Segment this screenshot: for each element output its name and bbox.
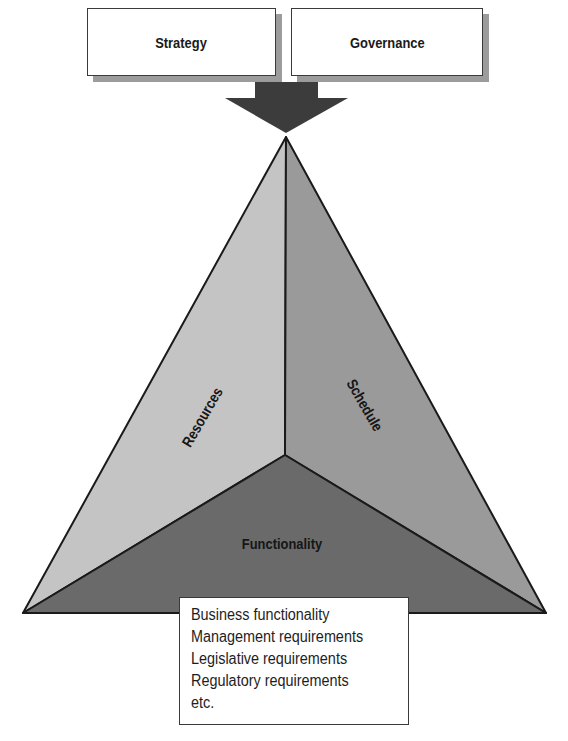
functionality-details-list: Business functionality Management requir… — [191, 604, 408, 714]
strategy-label: Strategy — [156, 34, 208, 51]
list-item: Regulatory requirements — [191, 670, 386, 692]
governance-label: Governance — [350, 34, 425, 51]
list-item: Business functionality — [191, 604, 386, 626]
functionality-label: Functionality — [242, 535, 322, 552]
list-item: Management requirements — [191, 626, 386, 648]
down-arrow-icon — [225, 82, 348, 133]
strategy-box: Strategy — [87, 8, 276, 76]
diagram-canvas: Strategy Governance Resources Schedule F… — [0, 0, 568, 741]
list-item: Legislative requirements — [191, 648, 386, 670]
list-item: etc. — [191, 692, 386, 714]
governance-box: Governance — [291, 8, 483, 76]
functionality-details-box: Business functionality Management requir… — [179, 597, 409, 725]
